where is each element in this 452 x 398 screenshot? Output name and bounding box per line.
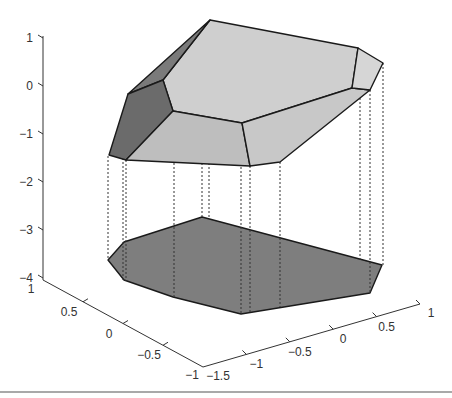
x-tick (286, 338, 290, 342)
y-tick (163, 342, 168, 345)
x-tick (329, 325, 333, 329)
z-tick-label: −1 (19, 127, 33, 141)
x-tick-label: −0.5 (288, 345, 312, 359)
x-tick-label: 0 (340, 332, 347, 346)
right-small-face (352, 48, 383, 90)
x-tick (242, 350, 246, 354)
z-tick-label: −3 (19, 223, 33, 237)
y-tick (83, 299, 88, 302)
y-tick (123, 321, 128, 324)
y-tick-label: 0.5 (61, 305, 78, 319)
z-tick (38, 179, 43, 182)
x-tick (373, 313, 377, 317)
base-projection (108, 217, 382, 314)
z-tick (38, 83, 43, 86)
z-tick (38, 275, 43, 278)
y-tick-label: 1 (28, 282, 35, 296)
z-tick-label: 0 (26, 79, 33, 93)
y-tick-label: 0 (106, 327, 113, 341)
z-tick (38, 227, 43, 230)
polyhedron-figure: 10−1−2−3−4 10.50−0.5−1 −1.5−1−0.500.51 (0, 0, 452, 398)
z-tick-label: −2 (19, 175, 33, 189)
x-tick-label: −1 (250, 357, 264, 371)
x-tick (416, 300, 420, 304)
y-tick-label: −1 (185, 368, 199, 382)
y-tick-label: −0.5 (137, 348, 161, 362)
z-tick-label: 1 (26, 31, 33, 45)
x-tick-label: 1 (428, 306, 435, 320)
x-tick-label: −1.5 (206, 369, 230, 383)
x-tick-label: 0.5 (378, 320, 395, 334)
z-tick (38, 35, 43, 38)
polyhedron (109, 20, 383, 166)
z-tick (38, 131, 43, 134)
